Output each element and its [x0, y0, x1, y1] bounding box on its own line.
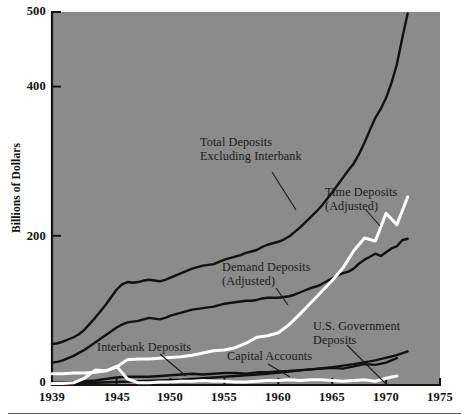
xtick-label-1975: 1975 — [418, 390, 462, 405]
xtick-label-1960: 1960 — [256, 390, 300, 405]
annotation-us-government-deposits: U.S. Government Deposits — [313, 320, 400, 347]
xtick-label-1965: 1965 — [310, 390, 354, 405]
annotation-interbank-deposits: Interbank Deposits — [97, 341, 191, 355]
annotation-demand-deposits-line1: Demand Deposits — [222, 261, 311, 275]
annotation-time-deposits-line1: Time Deposits — [325, 186, 397, 200]
xtick-label-1950: 1950 — [148, 390, 192, 405]
annotation-time-deposits-line2: (Adjusted) — [325, 200, 397, 214]
footer-rule — [8, 413, 461, 414]
annotation-total-deposits: Total Deposits Excluding Interbank — [200, 136, 302, 163]
series-total-deposits-excluding-interbank — [52, 13, 408, 343]
ytick-label-0: 0 — [6, 375, 46, 390]
y-axis-title: Billions of Dollars — [10, 128, 22, 248]
annotation-time-deposits: Time Deposits (Adjusted) — [325, 186, 397, 213]
xtick-label-1955: 1955 — [202, 390, 246, 405]
xtick-label-1939: 1939 — [30, 390, 74, 405]
ytick-label-400: 400 — [6, 79, 46, 94]
xtick-label-1970: 1970 — [364, 390, 408, 405]
annotation-us-government-line2: Deposits — [313, 334, 400, 348]
xtick-label-1945: 1945 — [95, 390, 139, 405]
leader-total-deposits — [272, 172, 296, 210]
annotation-us-government-line1: U.S. Government — [313, 320, 400, 334]
annotation-total-deposits-line1: Total Deposits — [200, 136, 302, 150]
ytick-label-500: 500 — [6, 4, 46, 19]
chart-figure: 500 400 200 0 Billions of Dollars 1939 1… — [0, 0, 469, 420]
annotation-demand-deposits: Demand Deposits (Adjusted) — [222, 261, 311, 288]
annotation-capital-accounts: Capital Accounts — [227, 350, 312, 364]
annotation-total-deposits-line2: Excluding Interbank — [200, 150, 302, 164]
annotation-demand-deposits-line2: (Adjusted) — [222, 275, 311, 289]
